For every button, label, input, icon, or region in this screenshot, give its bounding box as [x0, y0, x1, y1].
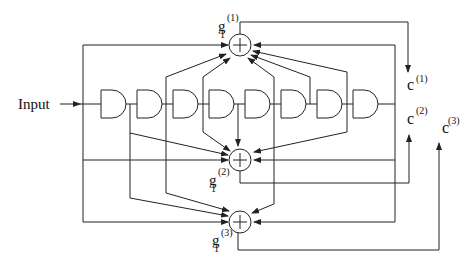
- svg-text:c: c: [407, 76, 414, 93]
- svg-text:(2): (2): [218, 166, 230, 178]
- flipflop-3: [173, 90, 198, 118]
- convolutional-encoder-diagram: Input g 1 (1) g 1 (2) g 1 (3) c (1) c (2…: [0, 0, 476, 262]
- svg-text:(3): (3): [448, 115, 460, 127]
- flipflop-7: [317, 90, 342, 118]
- svg-text:(3): (3): [221, 227, 233, 239]
- shift-register: [98, 45, 395, 210]
- flipflop-5: [245, 90, 270, 118]
- flipflop-1: [101, 90, 126, 118]
- svg-text:(1): (1): [416, 73, 428, 85]
- svg-text:(1): (1): [227, 12, 239, 24]
- input-bus: [83, 45, 228, 222]
- svg-text:(2): (2): [416, 105, 428, 117]
- svg-text:1: 1: [211, 183, 216, 194]
- output-label-c2: c (2): [407, 105, 428, 127]
- input-label: Input: [18, 96, 50, 112]
- adder-2-label: g 1 (2): [209, 166, 230, 194]
- adder-3-label: g 1 (3): [212, 227, 233, 254]
- flipflop-4: [209, 90, 234, 118]
- output-label-c3: c (3): [442, 115, 460, 136]
- flipflop-8: [353, 90, 378, 118]
- output-line-1: [240, 22, 408, 72]
- output-line-2: [240, 135, 409, 183]
- adder-2: [229, 149, 251, 171]
- svg-text:1: 1: [214, 243, 219, 254]
- svg-text:c: c: [407, 110, 414, 127]
- taps-adder-3: [130, 104, 395, 222]
- flipflop-6: [281, 90, 306, 118]
- output-label-c1: c (1): [407, 73, 428, 93]
- adder-1: [229, 34, 251, 56]
- svg-text:1: 1: [220, 29, 225, 40]
- flipflop-2: [137, 90, 162, 118]
